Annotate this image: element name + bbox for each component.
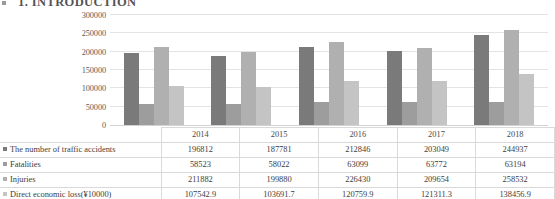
table-cell-value: 211882 <box>161 173 240 188</box>
bar-chart: 050000100000150000200000250000300000 <box>0 14 555 126</box>
heading-bullet-icon <box>2 1 6 5</box>
table-header-row: 20142015201620172018 <box>0 128 555 143</box>
y-axis-tick-label: 150000 <box>82 66 106 75</box>
data-table: 20142015201620172018The number of traffi… <box>0 127 555 199</box>
column-header-year: 2016 <box>318 128 397 143</box>
legend-series-label: Fatalities <box>0 158 161 173</box>
table-cell-value: 58022 <box>240 158 319 173</box>
table-cell-value: 196812 <box>161 143 240 158</box>
bar-group <box>373 15 461 125</box>
legend-series-label: Injuries <box>0 173 161 188</box>
bar <box>299 47 314 125</box>
table-cell-value: 258532 <box>476 173 555 188</box>
bar <box>432 81 447 125</box>
legend-label-text: The number of traffic accidents <box>10 145 115 154</box>
legend-label-text: Direct economic loss(¥10000) <box>10 190 111 199</box>
table-cell-value: 121311.3 <box>397 188 476 199</box>
table-cell-value: 209654 <box>397 173 476 188</box>
y-axis-tick-label: 100000 <box>82 84 106 93</box>
table-row: Injuries211882199880226430209654258532 <box>0 173 555 188</box>
table-cell-value: 212846 <box>318 143 397 158</box>
y-axis-tick-label: 50000 <box>86 102 106 111</box>
table-cell-value: 58523 <box>161 158 240 173</box>
bar <box>211 56 226 125</box>
plot-area <box>110 14 548 126</box>
table-cell-value: 244937 <box>476 143 555 158</box>
column-header-year: 2015 <box>240 128 319 143</box>
page-title: 1. INTRODUCTION <box>18 0 137 10</box>
bar <box>256 87 271 125</box>
document-page: 1. INTRODUCTION 050000100000150000200000… <box>0 0 555 199</box>
bar <box>474 35 489 125</box>
bar <box>124 53 139 125</box>
table-cell-value: 138456.9 <box>476 188 555 199</box>
table-cell-value: 63099 <box>318 158 397 173</box>
bar <box>139 104 154 125</box>
table-cell-value: 63194 <box>476 158 555 173</box>
axis-baseline <box>110 125 548 126</box>
legend-series-label: The number of traffic accidents <box>0 143 161 158</box>
bar <box>387 51 402 125</box>
column-header-year: 2014 <box>161 128 240 143</box>
legend-swatch-icon <box>3 177 7 181</box>
bar <box>489 102 504 125</box>
bar-group <box>460 15 548 125</box>
table-cell-value: 203049 <box>397 143 476 158</box>
bar <box>314 102 329 125</box>
table-row: Fatalities5852358022630996377263194 <box>0 158 555 173</box>
bar <box>226 104 241 125</box>
legend-swatch-icon <box>3 147 7 151</box>
bar <box>504 30 519 125</box>
table-cell-value: 187781 <box>240 143 319 158</box>
table-row: Direct economic loss(¥10000)107542.91036… <box>0 188 555 199</box>
column-header-year: 2018 <box>476 128 555 143</box>
legend-series-label: Direct economic loss(¥10000) <box>0 188 161 199</box>
table-cell-value: 120759.9 <box>318 188 397 199</box>
bar-group <box>110 15 198 125</box>
legend-swatch-icon <box>3 162 7 166</box>
bar <box>417 48 432 125</box>
bar <box>169 86 184 125</box>
y-axis-tick-label: 250000 <box>82 29 106 38</box>
legend-swatch-icon <box>3 192 7 196</box>
table-cell-value: 107542.9 <box>161 188 240 199</box>
y-axis: 050000100000150000200000250000300000 <box>62 14 106 126</box>
table-row: The number of traffic accidents196812187… <box>0 143 555 158</box>
bar <box>329 42 344 125</box>
table-cell-value: 103691.7 <box>240 188 319 199</box>
table-corner-cell <box>0 128 161 143</box>
column-header-year: 2017 <box>397 128 476 143</box>
bar <box>519 74 534 125</box>
bar-group <box>198 15 286 125</box>
table-cell-value: 199880 <box>240 173 319 188</box>
bar <box>402 102 417 125</box>
bar <box>241 52 256 125</box>
bar-group <box>285 15 373 125</box>
table-cell-value: 226430 <box>318 173 397 188</box>
bar <box>344 81 359 125</box>
legend-label-text: Injuries <box>10 175 36 184</box>
bar <box>154 47 169 125</box>
y-axis-tick-label: 300000 <box>82 11 106 20</box>
table-cell-value: 63772 <box>397 158 476 173</box>
legend-label-text: Fatalities <box>10 160 41 169</box>
y-axis-tick-label: 200000 <box>82 47 106 56</box>
